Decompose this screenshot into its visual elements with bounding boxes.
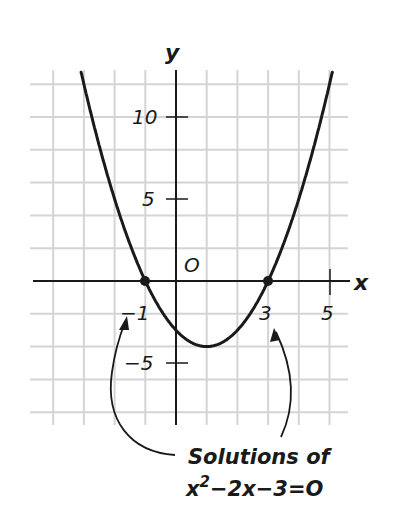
x-tick-label-3: 3 (259, 301, 272, 325)
root-point-3 (263, 276, 273, 286)
y-tick-label-neg5: −5 (124, 351, 153, 375)
arrowhead-3-icon (270, 328, 280, 342)
y-axis-label: y (165, 40, 181, 65)
equation-rest: −2x−3=O (210, 477, 324, 501)
equation-exponent: 2 (200, 473, 210, 491)
annotation-equation: x2−2x−3=O (185, 473, 324, 501)
x-tick-label-5: 5 (321, 301, 334, 325)
parabola-graph: y x O 10 5 −5 −1 3 5 Solutions of x2−2x−… (0, 0, 394, 531)
grid (30, 70, 348, 425)
x-axis-label: x (353, 270, 369, 295)
annotation-arrows (111, 322, 291, 455)
annotation-line1: Solutions of (188, 445, 333, 469)
root-point-neg1 (140, 276, 150, 286)
arrow-to-neg1 (111, 322, 175, 455)
y-tick-label-5: 5 (142, 187, 155, 211)
arrow-to-3 (276, 332, 291, 437)
origin-label: O (184, 253, 200, 277)
y-tick-label-10: 10 (132, 105, 157, 129)
